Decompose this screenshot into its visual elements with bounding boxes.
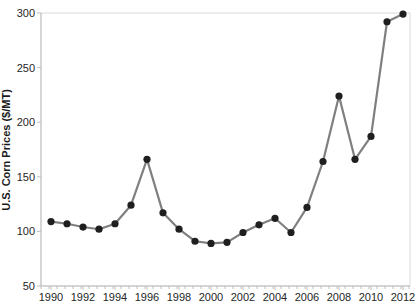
data-point [223, 239, 230, 246]
data-point [351, 156, 358, 163]
x-tick-label: 2006 [295, 291, 319, 303]
y-tick-label: 200 [17, 116, 35, 128]
data-point [175, 226, 182, 233]
data-point [287, 229, 294, 236]
data-point [271, 215, 278, 222]
data-point [79, 223, 86, 230]
y-axis-title: U.S. Corn Prices ($/MT) [0, 89, 12, 211]
data-point [319, 158, 326, 165]
data-point [335, 92, 342, 99]
data-point [159, 209, 166, 216]
y-tick-label: 150 [17, 171, 35, 183]
x-tick-label: 2008 [327, 291, 351, 303]
data-point [95, 226, 102, 233]
x-tick-label: 2002 [231, 291, 255, 303]
data-point [127, 202, 134, 209]
x-tick-label: 1996 [135, 291, 159, 303]
data-point [47, 218, 54, 225]
data-point [207, 240, 214, 247]
x-tick-label: 2012 [391, 291, 415, 303]
data-point [63, 220, 70, 227]
x-tick-label: 2000 [199, 291, 223, 303]
data-point [383, 18, 390, 25]
y-tick-label: 250 [17, 62, 35, 74]
price-line [51, 14, 403, 243]
data-point [399, 10, 406, 17]
data-point [239, 229, 246, 236]
data-point [255, 221, 262, 228]
data-point [367, 133, 374, 140]
corn-price-chart: U.S. Corn Prices ($/MT) 5010015020025030… [0, 0, 415, 307]
data-point [143, 156, 150, 163]
x-tick-label: 1994 [103, 291, 127, 303]
x-tick-label: 1990 [39, 291, 63, 303]
x-tick-label: 2010 [359, 291, 383, 303]
y-tick-label: 50 [23, 280, 35, 292]
data-point [111, 220, 118, 227]
x-tick-label: 2004 [263, 291, 287, 303]
y-tick-label: 300 [17, 7, 35, 19]
x-tick-label: 1998 [167, 291, 191, 303]
data-point [303, 204, 310, 211]
x-tick-label: 1992 [71, 291, 95, 303]
y-tick-label: 100 [17, 225, 35, 237]
data-point [191, 238, 198, 245]
plot-svg: U.S. Corn Prices ($/MT) 5010015020025030… [0, 0, 415, 307]
